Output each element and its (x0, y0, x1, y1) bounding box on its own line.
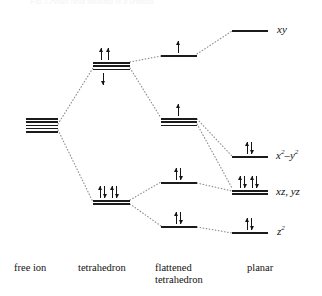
electrons-flattened-top (176, 41, 180, 53)
electron-pair (245, 142, 254, 154)
level-tetrahedron-e (93, 200, 130, 205)
electron-pair (174, 212, 183, 224)
level-line (93, 69, 130, 71)
electron-spin-down-arrow (103, 186, 107, 198)
electron-spin-down-arrow (243, 176, 247, 188)
level-line (161, 121, 197, 123)
electrons-planar-z2 (245, 218, 254, 230)
level-line (232, 190, 268, 192)
electrons-tetrahedron-e (98, 186, 119, 198)
x2-y2-sup2: 2 (295, 148, 299, 156)
link-flat-uppermid-to-planar-x2y2 (197, 119, 232, 156)
link-tet-t2-to-flat-uppermid (130, 68, 161, 118)
link-tet-e-to-flat-lowermid (130, 182, 161, 200)
column-label-planar: planar (247, 262, 273, 274)
electron-pair (110, 186, 119, 198)
level-flattened-bottom (161, 226, 197, 228)
electron-pair (250, 176, 259, 188)
electron-pair (245, 218, 254, 230)
electron-spin-down-arrow (255, 176, 259, 188)
level-flattened-upper-mid (161, 118, 197, 126)
level-planar-xy (232, 30, 268, 32)
electron-spin-up-arrow (110, 186, 114, 198)
electron-spin-up-arrow (176, 41, 180, 53)
electron-spin-up-arrow (245, 218, 249, 230)
level-planar-z2 (232, 232, 268, 234)
link-freeion-to-tet-t2 (58, 68, 93, 124)
link-flat-top-to-planar-xy (197, 31, 232, 54)
link-flat-bottom-to-planar-z2 (197, 227, 232, 233)
orbital-label-x2-y2: x2–y2 (276, 149, 298, 161)
flattened-label-line2: tetrahedron (155, 274, 203, 285)
level-line (26, 125, 58, 127)
electrons-flattened-lower-mid (174, 168, 183, 180)
level-line (232, 232, 268, 234)
electron-spin-down-arrow (250, 142, 254, 154)
level-line (232, 156, 268, 158)
column-label-flattened-tetrahedron: flattenedtetrahedron (155, 262, 203, 286)
cut-off-caption: Fig. Crystal field splitting of d orbita… (30, 0, 300, 4)
level-line (93, 62, 130, 64)
electrons-flattened-bottom (174, 212, 183, 224)
column-label-tetrahedron: tetrahedron (78, 262, 126, 274)
electron-spin-up-arrow (176, 104, 180, 116)
level-line (161, 182, 197, 184)
electron-spin-up-arrow (245, 142, 249, 154)
link-tet-e-to-flat-bottom (130, 204, 161, 226)
electron-spin-down-arrow (250, 218, 254, 230)
crystal-field-splitting-diagram: Fig. Crystal field splitting of d orbita… (0, 0, 322, 296)
electron-spin-up-arrow (99, 48, 103, 60)
link-flat-lowermid-to-planar-xzyz (197, 183, 232, 191)
level-free-ion-d (26, 118, 58, 133)
orbital-label-xy: xy (277, 23, 287, 35)
level-line (232, 193, 268, 195)
link-crossing-a (197, 124, 232, 188)
electron-pair (174, 168, 183, 180)
level-planar-xz-yz (232, 190, 268, 195)
level-line (93, 200, 130, 202)
electron-pair (98, 186, 107, 198)
orbital-label-xz-yz: xz, yz (276, 185, 300, 197)
electron-spin-down-arrow (101, 73, 105, 85)
z2-sup: 2 (281, 224, 285, 232)
electrons-planar-x2-y2 (245, 142, 254, 154)
level-line (232, 30, 268, 32)
level-line (161, 226, 197, 228)
x2-y2-mid: –y (284, 149, 294, 161)
level-line (26, 131, 58, 133)
level-flattened-lower-mid (161, 182, 197, 184)
level-tetrahedron-t2 (93, 62, 130, 70)
level-line (161, 55, 197, 57)
level-flattened-top (161, 55, 197, 57)
level-line (26, 128, 58, 130)
level-line (26, 121, 58, 123)
link-freeion-to-tet-e (58, 130, 93, 202)
electron-spin-down-arrow (179, 168, 183, 180)
electron-spin-up-arrow (238, 176, 242, 188)
electrons-tetrahedron-t2-above (99, 48, 110, 60)
link-tet-t2-to-flat-top (130, 56, 161, 62)
electron-spin-up-arrow (106, 48, 110, 60)
electron-spin-down-arrow (179, 212, 183, 224)
level-line (161, 125, 197, 127)
level-line (93, 203, 130, 205)
level-planar-x2-y2 (232, 156, 268, 158)
level-line (161, 118, 197, 120)
orbital-label-z2: z2 (277, 225, 285, 237)
column-label-free-ion: free ion (14, 262, 46, 274)
electrons-planar-xz-yz (238, 176, 259, 188)
electrons-flattened-upper-mid (176, 104, 180, 116)
correlation-lines (0, 0, 322, 296)
level-line (26, 118, 58, 120)
electron-spin-up-arrow (174, 212, 178, 224)
electron-pair (238, 176, 247, 188)
electron-spin-down-arrow (115, 186, 119, 198)
electron-spin-up-arrow (98, 186, 102, 198)
level-line (93, 65, 130, 67)
flattened-label-line1: flattened (155, 262, 192, 273)
electron-spin-up-arrow (250, 176, 254, 188)
electron-spin-up-arrow (174, 168, 178, 180)
electrons-tetrahedron-t2-below (101, 73, 105, 85)
